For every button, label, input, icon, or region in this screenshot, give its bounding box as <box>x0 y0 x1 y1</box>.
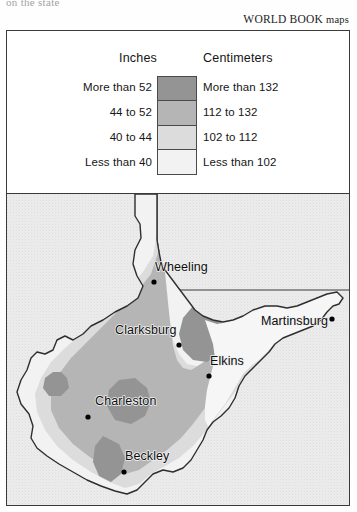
legend-swatch-1 <box>158 101 196 125</box>
map-svg: Wheeling Clarksburg Martinsburg Elkins C… <box>7 194 349 505</box>
city-label-elkins: Elkins <box>210 354 244 368</box>
legend-swatch-0 <box>158 77 196 101</box>
map-frame: Inches Centimeters More than 52 44 to 52… <box>6 30 350 506</box>
city-dot-martinsburg <box>329 316 334 321</box>
legend-swatch-3 <box>158 150 196 174</box>
legend-cm-1: 112 to 132 <box>203 106 353 118</box>
map-canvas: Wheeling Clarksburg Martinsburg Elkins C… <box>7 194 349 505</box>
legend-panel: Inches Centimeters More than 52 44 to 52… <box>7 31 349 194</box>
city-label-clarksburg: Clarksburg <box>115 323 176 337</box>
city-dot-clarksburg <box>176 342 181 347</box>
city-label-beckley: Beckley <box>125 449 170 463</box>
legend-cm-0: More than 132 <box>203 81 353 93</box>
credit-suffix: maps <box>326 14 349 25</box>
legend-labels-centimeters: More than 132 112 to 132 102 to 112 Less… <box>203 76 351 175</box>
legend-inches-3: Less than 40 <box>12 156 152 168</box>
legend-swatch-column <box>157 76 197 175</box>
credit-brand: WORLD BOOK <box>243 13 323 25</box>
city-dot-elkins <box>206 373 211 378</box>
legend-inches-2: 40 to 44 <box>12 131 152 143</box>
map-page: on the state WORLD BOOK maps Inches Cent… <box>0 0 357 512</box>
city-label-martinsburg: Martinsburg <box>261 314 328 328</box>
legend-header-centimeters: Centimeters <box>203 51 273 65</box>
legend-inches-1: 44 to 52 <box>12 106 152 118</box>
legend-cm-3: Less than 102 <box>203 156 353 168</box>
publisher-credit: WORLD BOOK maps <box>243 13 349 25</box>
legend-header-inches: Inches <box>119 51 157 65</box>
legend-labels-inches: More than 52 44 to 52 40 to 44 Less than… <box>7 76 152 175</box>
city-dot-beckley <box>121 469 126 474</box>
city-dot-wheeling <box>151 279 156 284</box>
city-dot-charleston <box>85 414 90 419</box>
city-label-wheeling: Wheeling <box>155 260 208 274</box>
city-label-charleston: Charleston <box>95 394 156 408</box>
legend-inches-0: More than 52 <box>12 81 152 93</box>
legend-cm-2: 102 to 112 <box>203 131 353 143</box>
legend-swatch-2 <box>158 126 196 150</box>
cut-off-headline: on the state <box>6 0 236 8</box>
